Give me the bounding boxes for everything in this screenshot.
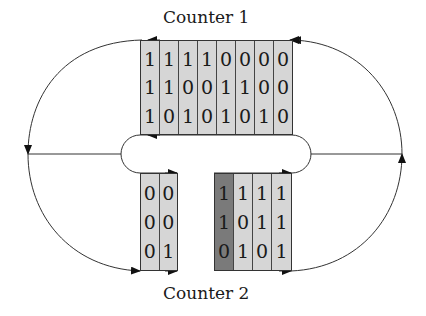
bit: 1	[144, 105, 156, 127]
bit: 1	[275, 240, 287, 262]
bit: 0	[237, 211, 249, 233]
counter1-register: 1 1 1 1 1 0 1 0 1 1 0 0 0 1 1 0 1 0 0 0 …	[140, 40, 293, 135]
bit: 1	[275, 182, 287, 204]
bit: 0	[277, 76, 289, 98]
bit: 0	[239, 105, 251, 127]
bit: 1	[220, 76, 232, 98]
bit: 0	[144, 240, 156, 262]
counter2-left-register: 0 0 0 0 0 1	[140, 173, 178, 271]
bit: 1	[163, 76, 175, 98]
bit: 1	[275, 211, 287, 233]
bit: 1	[218, 182, 230, 204]
register-column: 1 1 1	[141, 41, 160, 134]
register-column: 1 0 0	[198, 41, 217, 134]
bit: 1	[256, 182, 268, 204]
register-column: 1 1 1	[272, 174, 291, 270]
bit: 1	[144, 48, 156, 70]
bit: 0	[144, 182, 156, 204]
right-upper-arc	[292, 40, 402, 154]
bit: 1	[201, 48, 213, 70]
bit: 1	[256, 211, 268, 233]
bit: 1	[239, 76, 251, 98]
bit: 0	[162, 182, 174, 204]
bit: 0	[220, 48, 232, 70]
bit: 0	[144, 211, 156, 233]
bit: 1	[144, 76, 156, 98]
bit: 0	[218, 240, 230, 262]
bit: 0	[201, 76, 213, 98]
bit: 0	[163, 105, 175, 127]
bit: 0	[258, 48, 270, 70]
central-slot	[121, 135, 311, 173]
bit: 1	[237, 182, 249, 204]
register-column: 0 0 1	[160, 174, 178, 270]
bit: 0	[239, 48, 251, 70]
bit: 1	[182, 48, 194, 70]
bit: 0	[256, 240, 268, 262]
right-lower-arc	[291, 154, 402, 271]
bit: 1	[258, 105, 270, 127]
counter2-right-register: 1 1 0 1 0 1 1 1 0 1 1 1	[214, 173, 292, 271]
left-lower-arc	[28, 154, 140, 271]
counter1-label: Counter 1	[163, 7, 249, 27]
register-column: 0 1 1	[217, 41, 236, 134]
bit: 0	[258, 76, 270, 98]
register-column-highlighted: 1 1 0	[215, 174, 234, 270]
register-column: 0 0 0	[274, 41, 292, 134]
bit: 1	[182, 105, 194, 127]
left-upper-arc	[28, 40, 142, 154]
register-column: 1 1 0	[160, 41, 179, 134]
bit: 1	[163, 48, 175, 70]
register-column: 0 0 1	[255, 41, 274, 134]
bit: 1	[237, 240, 249, 262]
bit: 0	[162, 211, 174, 233]
register-column: 1 1 0	[253, 174, 272, 270]
register-column: 0 0 0	[141, 174, 160, 270]
register-column: 1 0 1	[179, 41, 198, 134]
register-column: 0 1 0	[236, 41, 255, 134]
bit: 0	[182, 76, 194, 98]
bit: 1	[220, 105, 232, 127]
bit: 0	[201, 105, 213, 127]
register-column: 1 0 1	[234, 174, 253, 270]
bit: 0	[277, 48, 289, 70]
counter2-label: Counter 2	[163, 283, 249, 303]
bit: 1	[218, 211, 230, 233]
bit: 1	[162, 240, 174, 262]
bit: 0	[277, 105, 289, 127]
